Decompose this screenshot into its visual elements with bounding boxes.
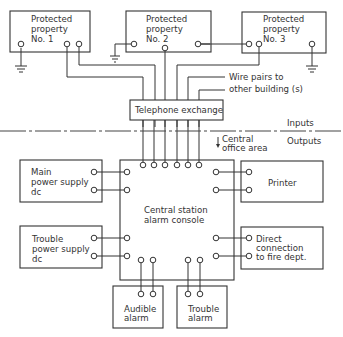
svg-text:alarm: alarm [188, 313, 213, 323]
fire-dept-connection: Direct connection to fire dept. [219, 227, 323, 269]
svg-text:other building (s): other building (s) [229, 84, 303, 94]
central-station-alarm-diagram: Protected property No. 1 Protected prope… [0, 0, 343, 337]
trouble-power-supply: Trouble power supply dc [20, 226, 124, 268]
telephone-exchange: Telephone exchange [130, 100, 223, 120]
svg-text:property: property [146, 24, 183, 34]
main-power-supply: Main power supply dc [20, 160, 124, 202]
svg-text:No. 1: No. 1 [31, 34, 53, 44]
svg-text:to fire dept.: to fire dept. [256, 252, 306, 262]
central-station-console: Central station alarm console [120, 160, 234, 280]
svg-text:Central station: Central station [144, 205, 208, 215]
svg-text:dc: dc [32, 254, 42, 264]
svg-text:dc: dc [31, 187, 41, 197]
protected-property-2: Protected property No. 2 [110, 11, 211, 62]
printer: Printer [219, 161, 323, 202]
svg-text:power supply: power supply [32, 244, 90, 254]
svg-text:alarm: alarm [124, 313, 149, 323]
svg-text:Protected: Protected [31, 14, 72, 24]
svg-text:Telephone exchange: Telephone exchange [134, 105, 223, 115]
svg-text:Protected: Protected [263, 14, 304, 24]
svg-text:No. 2: No. 2 [146, 34, 168, 44]
ground-icon [110, 44, 131, 62]
svg-text:Main: Main [31, 167, 52, 177]
svg-text:Protected: Protected [146, 14, 187, 24]
svg-text:office area: office area [222, 143, 267, 153]
wire-pairs-label: Wire pairs to other building (s) [229, 72, 303, 94]
svg-text:property: property [31, 24, 68, 34]
protected-property-1: Protected property No. 1 [10, 11, 90, 72]
protected-property-3: Protected property No. 3 [242, 12, 326, 72]
exchange-to-console-wires [143, 120, 199, 162]
inputs-outputs-divider: Inputs Outputs Central office area [0, 118, 343, 153]
trouble-alarm: Trouble alarm [177, 263, 227, 328]
svg-text:power supply: power supply [31, 177, 89, 187]
svg-text:Trouble: Trouble [31, 234, 63, 244]
svg-text:property: property [263, 24, 300, 34]
svg-text:Inputs: Inputs [287, 118, 314, 128]
svg-text:Outputs: Outputs [287, 136, 322, 146]
svg-text:alarm console: alarm console [144, 215, 204, 225]
svg-text:No. 3: No. 3 [263, 34, 285, 44]
arrow-down-icon [216, 137, 220, 148]
svg-text:Wire pairs to: Wire pairs to [229, 72, 284, 82]
svg-text:Printer: Printer [268, 178, 297, 188]
ground-icon [306, 47, 318, 72]
